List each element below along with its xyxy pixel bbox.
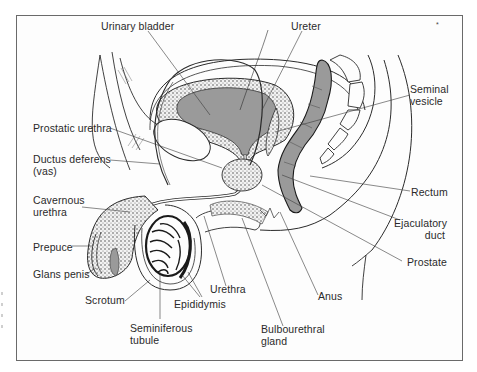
bulb-tissue (210, 201, 268, 224)
label-prostate: Prostate (407, 256, 447, 268)
label-rectum: Rectum (411, 186, 448, 198)
label-urinary-bladder: Urinary bladder (101, 20, 174, 32)
prostate-gland (222, 159, 262, 191)
label-bulbourethral-gland: Bulbourethral gland (261, 323, 325, 347)
label-ejaculatory-duct: Ejaculatory duct (394, 217, 445, 241)
label-glans-penis: Glans penis (33, 268, 90, 280)
label-ductus-deferens: Ductus deferens (vas) (33, 153, 111, 177)
label-seminal-vesicle: Seminal vesicle (410, 83, 449, 107)
label-cavernous-urethra: Cavernous urethra (33, 194, 85, 218)
label-anus: Anus (318, 290, 342, 302)
margin-marks (1, 292, 5, 336)
label-ureter: Ureter (291, 20, 321, 32)
label-seminiferous-tubule: Seminiferous tubule (130, 322, 192, 346)
anatomy-illustration (0, 0, 477, 372)
label-epididymis: Epididymis (174, 298, 226, 310)
corner-mark: * (436, 21, 439, 28)
label-prostatic-urethra: Prostatic urethra (33, 122, 112, 134)
label-urethra: Urethra (210, 283, 246, 295)
label-scrotum: Scrotum (85, 294, 125, 306)
label-prepuce: Prepuce (33, 241, 73, 253)
